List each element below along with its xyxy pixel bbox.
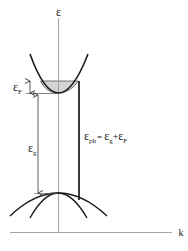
k-axis-label: k — [179, 227, 184, 238]
fermi-energy-label: εF — [13, 80, 22, 96]
energy-axis-label: ε — [56, 5, 61, 19]
photon-energy-equation: εph=εg+εF — [84, 129, 127, 145]
band-diagram: ε k εF εg εph=εg+εF — [0, 0, 188, 251]
band-gap-label: εg — [28, 141, 37, 157]
